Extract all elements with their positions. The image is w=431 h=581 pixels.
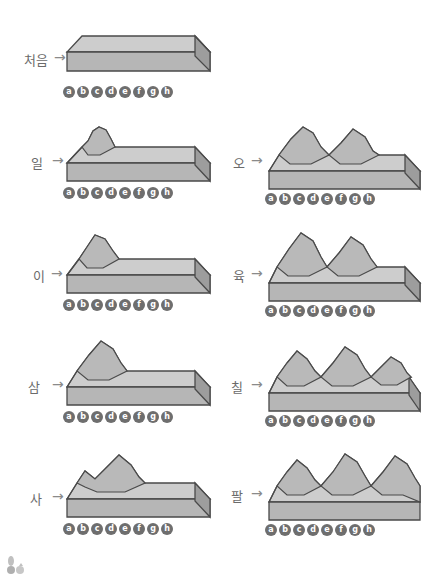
- tick-g: g: [349, 193, 361, 205]
- panel-label-cheoeum: 처음: [24, 50, 48, 69]
- tick-h: h: [363, 305, 375, 317]
- tick-g: g: [147, 299, 159, 311]
- tick-c: c: [91, 86, 103, 98]
- tick-g: g: [349, 305, 361, 317]
- panel-il: 일 → a b c d e f g h: [0, 115, 215, 195]
- tick-g: g: [147, 411, 159, 423]
- panel-label-sa: 사: [30, 489, 42, 508]
- panel-cheoeum: 처음 → a b c d e f g h: [0, 18, 215, 93]
- tick-row-i: a b c d e f g h: [63, 299, 173, 311]
- tick-g: g: [349, 415, 361, 427]
- tick-e: e: [119, 411, 131, 423]
- tick-e: e: [119, 299, 131, 311]
- tick-e: e: [119, 523, 131, 535]
- tick-h: h: [161, 411, 173, 423]
- tick-e: e: [321, 193, 333, 205]
- tick-e: e: [321, 524, 333, 536]
- tick-row-pal: a b c d e f g h: [265, 524, 375, 536]
- tick-h: h: [363, 524, 375, 536]
- tick-h: h: [161, 523, 173, 535]
- tick-row-yuk: a b c d e f g h: [265, 305, 375, 317]
- tick-b: b: [279, 524, 291, 536]
- panel-sa: 사 → a b c d e f g h: [0, 443, 215, 525]
- tick-g: g: [147, 187, 159, 199]
- tick-row-chil: a b c d e f g h: [265, 415, 375, 427]
- tick-d: d: [307, 193, 319, 205]
- tick-h: h: [363, 193, 375, 205]
- tick-h: h: [161, 299, 173, 311]
- tick-f: f: [335, 415, 347, 427]
- tick-a: a: [265, 415, 277, 427]
- tick-b: b: [77, 523, 89, 535]
- panel-i: 이 → a b c d e f g h: [0, 225, 215, 305]
- tick-a: a: [63, 523, 75, 535]
- panel-label-il: 일: [31, 153, 43, 172]
- tick-g: g: [147, 523, 159, 535]
- tick-c: c: [91, 411, 103, 423]
- tick-c: c: [293, 193, 305, 205]
- tick-c: c: [293, 415, 305, 427]
- panel-label-i: 이: [33, 266, 45, 285]
- panel-label-o: 오: [233, 153, 245, 172]
- block-sa: [55, 445, 215, 521]
- block-chil: [257, 335, 427, 415]
- panel-label-pal: 팔: [231, 486, 243, 505]
- tick-row-sa: a b c d e f g h: [63, 523, 173, 535]
- tick-e: e: [119, 187, 131, 199]
- panel-yuk: 육 → a b c d e f g h: [215, 225, 431, 307]
- tick-c: c: [293, 524, 305, 536]
- tick-a: a: [265, 305, 277, 317]
- tick-c: c: [91, 187, 103, 199]
- tick-e: e: [321, 305, 333, 317]
- scan-artifact-icon: [4, 552, 30, 576]
- tick-d: d: [307, 524, 319, 536]
- fold-progression-figure: 처음 → a b c d e f g h 일 → a: [0, 0, 431, 581]
- tick-a: a: [265, 524, 277, 536]
- tick-h: h: [161, 86, 173, 98]
- panel-label-sam: 삼: [28, 377, 40, 396]
- block-cheoeum: [55, 26, 215, 88]
- tick-row-sam: a b c d e f g h: [63, 411, 173, 423]
- tick-b: b: [77, 187, 89, 199]
- block-il: [55, 117, 215, 187]
- tick-b: b: [279, 415, 291, 427]
- tick-d: d: [105, 187, 117, 199]
- tick-a: a: [265, 193, 277, 205]
- tick-f: f: [133, 86, 145, 98]
- tick-g: g: [349, 524, 361, 536]
- tick-c: c: [91, 299, 103, 311]
- tick-f: f: [133, 411, 145, 423]
- tick-a: a: [63, 187, 75, 199]
- tick-f: f: [133, 299, 145, 311]
- tick-f: f: [133, 523, 145, 535]
- tick-f: f: [335, 305, 347, 317]
- tick-f: f: [133, 187, 145, 199]
- panel-o: 오 → a b c d e f g h: [215, 115, 431, 195]
- tick-h: h: [363, 415, 375, 427]
- tick-d: d: [105, 411, 117, 423]
- tick-f: f: [335, 524, 347, 536]
- tick-a: a: [63, 411, 75, 423]
- block-sam: [55, 335, 215, 411]
- tick-b: b: [279, 305, 291, 317]
- tick-c: c: [91, 523, 103, 535]
- tick-row-o: a b c d e f g h: [265, 193, 375, 205]
- tick-d: d: [105, 299, 117, 311]
- tick-c: c: [293, 305, 305, 317]
- tick-b: b: [77, 411, 89, 423]
- tick-d: d: [307, 415, 319, 427]
- block-pal: [257, 442, 431, 526]
- tick-d: d: [105, 86, 117, 98]
- block-i: [55, 227, 215, 299]
- tick-h: h: [161, 187, 173, 199]
- panel-pal: 팔 → a b c d e f g h: [215, 440, 431, 526]
- tick-b: b: [77, 86, 89, 98]
- tick-d: d: [307, 305, 319, 317]
- block-o: [257, 117, 427, 193]
- tick-e: e: [321, 415, 333, 427]
- tick-d: d: [105, 523, 117, 535]
- panel-sam: 삼 → a b c d e f g h: [0, 333, 215, 415]
- tick-row-cheoeum: a b c d e f g h: [63, 86, 173, 98]
- tick-b: b: [279, 193, 291, 205]
- tick-a: a: [63, 86, 75, 98]
